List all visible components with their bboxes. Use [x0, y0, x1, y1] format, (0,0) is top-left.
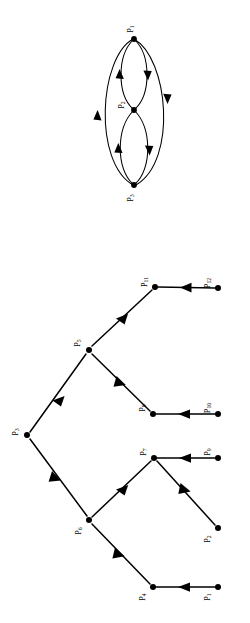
- label-p12-tree: P12: [203, 278, 212, 288]
- arrowhead-p3-p2: [114, 143, 122, 153]
- edge-p1-p2: [135, 40, 147, 109]
- panel-rooted-in-tree: P3 P5 P6 P11 P8 P7 P4 P12 P10 P9 P2 P1: [11, 277, 221, 601]
- node-p11-tree: [152, 284, 158, 290]
- node-p8-tree: [150, 411, 156, 417]
- node-p7-tree: [151, 455, 157, 461]
- edge-p6-p3: [30, 439, 87, 516]
- arrowhead-p2-p1: [116, 69, 124, 79]
- label-p3-tree: P3: [11, 428, 20, 436]
- edge-p3-p1-outer: [105, 39, 133, 185]
- label-p1-top: P1: [126, 25, 135, 33]
- arrowhead-p3-p1-outer: [93, 110, 101, 121]
- node-p9-tree: [215, 455, 221, 461]
- node-p12-tree: [215, 285, 221, 291]
- arrowhead-p12-p11: [180, 283, 192, 293]
- label-p9-tree: P9: [203, 448, 212, 456]
- label-p1-tree: P1: [203, 593, 212, 601]
- label-p2-top: P2: [117, 101, 126, 109]
- label-p8-tree: P8: [138, 404, 147, 412]
- arrowhead-p1-p4: [178, 582, 190, 591]
- edge-p5-p3: [30, 354, 86, 432]
- label-p10-tree: P10: [203, 403, 212, 413]
- edge-p1-p3-outer: [134, 39, 164, 185]
- label-p5-tree: P5: [73, 339, 82, 347]
- edge-p2-p1: [121, 40, 133, 109]
- panel-cyclic-multigraph: P1 P2 P3: [93, 25, 171, 202]
- arrowhead-p10-p8: [178, 409, 190, 418]
- label-p3-top: P3: [126, 194, 135, 202]
- figure-canvas: P1 P2 P3: [0, 0, 250, 623]
- node-p3-tree: [24, 432, 30, 438]
- node-p6-tree: [86, 517, 92, 523]
- edge-p3-p2: [120, 111, 133, 184]
- arrowhead-p9-p7: [179, 453, 191, 462]
- label-p7-tree: P7: [139, 448, 148, 456]
- node-p1-tree: [215, 584, 221, 590]
- node-p2-top: [131, 107, 137, 113]
- label-p4-tree: P4: [138, 593, 147, 601]
- arrowhead-p2-p3: [145, 146, 153, 156]
- node-p3-top: [131, 182, 137, 188]
- node-p5-tree: [86, 347, 92, 353]
- edge-p2-p7: [157, 461, 215, 525]
- arrowhead-p2-p7: [178, 483, 190, 494]
- node-p4-tree: [150, 584, 156, 590]
- arrowhead-p7-p6: [116, 485, 128, 496]
- label-p2-tree: P2: [203, 535, 212, 543]
- label-p11-tree: P11: [140, 277, 149, 287]
- node-p1-top: [131, 36, 137, 42]
- node-p2-tree: [215, 525, 221, 531]
- arrowhead-p1-p2: [143, 71, 151, 81]
- label-p6-tree: P6: [74, 527, 83, 535]
- arrowhead-p1-p3-outer: [163, 94, 171, 104]
- node-p10-tree: [215, 411, 221, 417]
- figure-root: P1 P2 P3: [0, 0, 250, 623]
